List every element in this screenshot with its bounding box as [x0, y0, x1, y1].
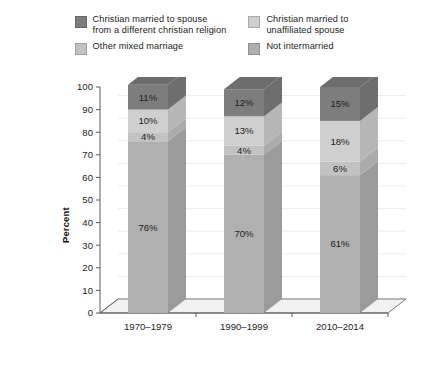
legend-swatch-icon	[75, 16, 87, 28]
x-axis-ticks: 1970–19791990–19992010–2014	[124, 313, 388, 332]
bar-value-label: 18%	[330, 136, 350, 147]
bar-value-label: 76%	[138, 222, 158, 233]
legend-item-label: Not intermarried	[266, 41, 333, 52]
chart-legend: Christian married to spouse from a diffe…	[0, 14, 423, 55]
legend-swatch-icon	[75, 43, 87, 55]
legend-item-other-mixed: Other mixed marriage	[75, 41, 227, 55]
y-tick-label: 0	[88, 307, 93, 318]
x-tick-label: 1990–1999	[220, 321, 268, 332]
bar-value-label: 4%	[237, 145, 251, 156]
bar-value-label: 6%	[333, 163, 347, 174]
bar-value-label: 61%	[330, 238, 350, 249]
y-axis-ticks: 1009080706050403020100	[77, 81, 100, 318]
bar-value-label: 10%	[138, 115, 158, 126]
y-axis-label: Percent	[60, 207, 71, 243]
y-tick-label: 100	[77, 81, 93, 92]
bar-value-label: 13%	[234, 125, 254, 136]
bar-segment-side	[168, 127, 186, 313]
y-tick-label: 40	[82, 217, 93, 228]
x-tick-label: 2010–2014	[316, 321, 365, 332]
plot-area: Percent 1009080706050403020100 76%4%10%1…	[62, 77, 407, 339]
legend-item-diff-christian: Christian married to spouse from a diffe…	[75, 14, 227, 35]
chart-container: Christian married to spouse from a diffe…	[0, 0, 423, 378]
legend-swatch-icon	[248, 16, 260, 28]
bar-segment-side	[264, 141, 282, 313]
y-tick-label: 70	[82, 149, 93, 160]
bar-value-label: 15%	[330, 98, 350, 109]
bar-value-label: 4%	[141, 131, 155, 142]
x-tick-label: 1970–1979	[124, 321, 172, 332]
y-tick-label: 90	[82, 104, 93, 115]
legend-item-not-intermarried: Not intermarried	[248, 41, 348, 55]
legend-item-unaffiliated: Christian married to unaffiliated spouse	[248, 14, 348, 35]
legend-swatch-icon	[248, 43, 260, 55]
bar-segment-side	[360, 161, 378, 313]
y-tick-label: 50	[82, 194, 93, 205]
bar-value-label: 70%	[234, 228, 254, 239]
bar-value-label: 12%	[234, 97, 254, 108]
y-tick-label: 20	[82, 262, 93, 273]
bar-value-label: 11%	[139, 92, 158, 103]
y-tick-label: 80	[82, 127, 93, 138]
legend-item-label: Christian married to unaffiliated spouse	[266, 14, 348, 35]
bar-series-group: 76%4%10%11%70%4%13%12%61%6%18%15%	[128, 77, 378, 313]
y-tick-label: 60	[82, 172, 93, 183]
legend-item-label: Christian married to spouse from a diffe…	[93, 14, 227, 35]
y-tick-label: 10	[82, 285, 93, 296]
y-tick-label: 30	[82, 240, 93, 251]
chart-svg: 1009080706050403020100 76%4%10%11%70%4%1…	[62, 77, 407, 339]
legend-item-label: Other mixed marriage	[93, 41, 184, 52]
